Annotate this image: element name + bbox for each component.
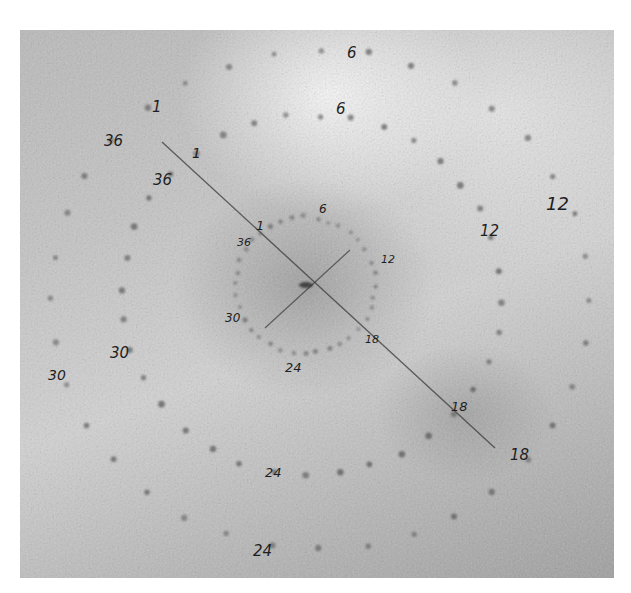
- ring-dot-middle: [399, 451, 406, 458]
- film-grain: [20, 30, 614, 578]
- ring-dot-outer: [111, 456, 117, 462]
- ring-dot-outer: [226, 64, 232, 70]
- label-inner-1: 1: [256, 218, 264, 233]
- ring-dot-outer: [84, 423, 90, 429]
- ring-dot-outer: [315, 545, 321, 551]
- label-inner-36: 36: [237, 236, 251, 249]
- ring-dot-inner: [316, 217, 320, 221]
- ring-dot-outer: [451, 514, 457, 520]
- label-outer-6: 6: [347, 44, 357, 62]
- label-outer-1: 1: [152, 98, 162, 116]
- ring-dot-outer: [525, 135, 531, 141]
- ring-dot-outer: [53, 339, 59, 345]
- ring-dot-inner: [347, 336, 351, 340]
- ring-dot-outer: [65, 210, 71, 216]
- ring-dot-inner: [301, 213, 306, 218]
- ring-dot-middle: [411, 138, 416, 143]
- ring-dot-inner: [313, 349, 318, 354]
- label-middle-1: 1: [192, 145, 201, 161]
- ring-dot-inner: [304, 351, 309, 356]
- ring-dot-outer: [224, 531, 229, 536]
- ring-dot-outer: [586, 298, 591, 303]
- ring-dot-inner: [237, 258, 242, 263]
- label-inner-18: 18: [365, 333, 379, 346]
- ring-dot-outer: [48, 296, 53, 301]
- dot-pattern-scene: 1 36 6 12 18 24 30 1 36 6 12 18 24 30 1 …: [20, 30, 614, 578]
- ring-dot-outer: [583, 254, 588, 259]
- dot-pattern-photo: 1 36 6 12 18 24 30 1 36 6 12 18 24 30 1 …: [20, 30, 614, 578]
- ring-dot-outer: [366, 49, 372, 55]
- ring-dot-middle: [496, 268, 502, 274]
- ring-dot-outer: [412, 532, 417, 537]
- ring-dot-middle: [302, 472, 309, 479]
- label-inner-24: 24: [285, 360, 302, 375]
- ring-dot-middle: [457, 182, 464, 189]
- ring-dot-outer: [145, 105, 151, 111]
- ring-dot-inner: [268, 224, 273, 229]
- ring-dot-outer: [408, 63, 414, 69]
- ring-dot-middle: [381, 124, 387, 130]
- ring-dot-inner: [365, 317, 369, 321]
- ring-dot-middle: [498, 300, 505, 307]
- ring-dot-middle: [470, 387, 475, 392]
- ring-dot-inner: [290, 215, 295, 220]
- ring-dot-middle: [337, 469, 343, 475]
- ring-dot-inner: [349, 230, 353, 234]
- ring-dot-outer: [181, 515, 187, 521]
- label-outer-36: 36: [104, 132, 123, 150]
- ring-dot-inner: [238, 305, 242, 309]
- ring-dot-inner: [326, 221, 330, 225]
- ring-dot-outer: [583, 340, 589, 346]
- ring-dot-outer: [81, 173, 87, 179]
- ring-dot-inner: [356, 327, 360, 331]
- ring-dot-inner: [327, 346, 332, 351]
- ring-dot-middle: [236, 461, 242, 467]
- ring-dot-inner: [233, 281, 237, 285]
- label-middle-36: 36: [153, 171, 172, 189]
- ring-dot-inner: [371, 296, 375, 300]
- ring-dot-middle: [183, 428, 189, 434]
- ring-dot-middle: [141, 375, 146, 380]
- ring-dot-outer: [183, 81, 188, 86]
- ring-dot-middle: [210, 446, 216, 452]
- ring-dot-inner: [249, 328, 253, 332]
- ring-dot-outer: [144, 490, 149, 495]
- ring-dot-middle: [437, 158, 443, 164]
- ring-dot-middle: [120, 316, 126, 322]
- ring-dot-outer: [572, 211, 577, 216]
- ring-dot-inner: [292, 351, 297, 356]
- label-middle-30: 30: [110, 344, 129, 362]
- ring-dot-outer: [489, 489, 495, 495]
- label-outer-24: 24: [253, 542, 272, 560]
- ring-dot-inner: [362, 247, 367, 252]
- ring-dot-middle: [477, 206, 483, 212]
- ring-dot-inner: [356, 238, 360, 242]
- ring-dot-middle: [425, 432, 432, 439]
- ring-dot-inner: [236, 271, 241, 276]
- ring-dot-middle: [124, 255, 130, 261]
- ring-dot-middle: [251, 120, 257, 126]
- label-inner-30: 30: [225, 311, 241, 325]
- ring-dot-inner: [369, 261, 373, 265]
- label-middle-18: 18: [451, 399, 468, 414]
- ring-dot-middle: [318, 114, 323, 119]
- ring-dot-outer: [272, 52, 277, 57]
- ring-dot-middle: [158, 401, 165, 408]
- ring-dot-inner: [243, 317, 248, 322]
- ring-dot-middle: [220, 132, 227, 139]
- ring-dot-middle: [367, 462, 373, 468]
- ring-dot-inner: [373, 270, 378, 275]
- label-middle-6: 6: [336, 100, 346, 118]
- ring-dot-middle: [283, 112, 289, 118]
- ring-dot-inner: [338, 342, 343, 347]
- ring-dot-outer: [550, 422, 556, 428]
- ring-dot-inner: [370, 305, 375, 310]
- ring-dot-outer: [319, 48, 324, 53]
- label-inner-6: 6: [319, 202, 327, 216]
- ring-dot-outer: [366, 544, 371, 549]
- label-inner-12: 12: [381, 253, 395, 266]
- label-middle-12: 12: [480, 222, 499, 240]
- ring-dot-inner: [268, 341, 273, 346]
- ring-dot-inner: [374, 285, 378, 289]
- ring-dot-outer: [53, 255, 58, 260]
